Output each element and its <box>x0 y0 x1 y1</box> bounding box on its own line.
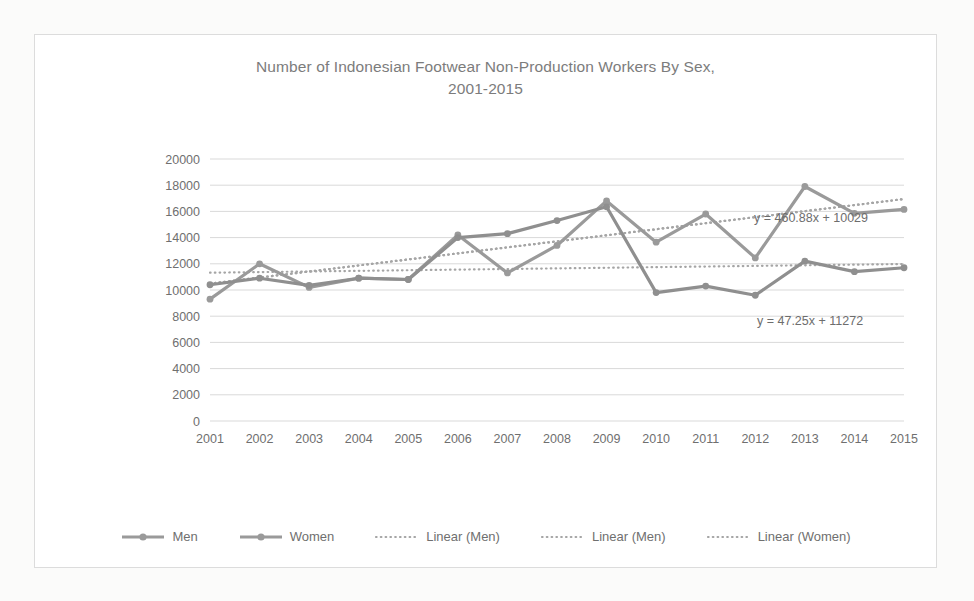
data-point-marker <box>801 258 808 265</box>
y-axis-tick-label: 20000 <box>165 153 200 167</box>
data-point-marker <box>901 264 908 271</box>
x-axis-tick-label: 2014 <box>841 432 869 446</box>
plot-svg: 0200040006000800010000120001400016000180… <box>35 35 938 569</box>
legend-dotted-line-icon <box>540 531 586 543</box>
data-point-marker <box>355 275 362 282</box>
data-point-marker <box>901 206 908 213</box>
data-point-marker <box>454 234 461 241</box>
data-point-marker <box>207 296 214 303</box>
data-point-marker <box>405 276 412 283</box>
data-point-marker <box>603 198 610 205</box>
data-point-marker <box>256 275 263 282</box>
legend-item-label: Women <box>290 529 335 544</box>
legend-item-label: Men <box>172 529 197 544</box>
legend-item-label: Linear (Women) <box>758 529 851 544</box>
y-axis-tick-label: 0 <box>193 415 200 429</box>
legend-item[interactable]: Linear (Men) <box>540 529 666 544</box>
data-point-marker <box>752 292 759 299</box>
legend-item-label: Linear (Men) <box>592 529 666 544</box>
data-point-marker <box>207 281 214 288</box>
x-axis-tick-label: 2003 <box>295 432 323 446</box>
x-axis-tick-label: 2012 <box>741 432 769 446</box>
legend-line-marker-icon <box>120 531 166 543</box>
data-point-marker <box>306 282 313 289</box>
y-axis-tick-label: 2000 <box>172 388 200 402</box>
data-point-marker <box>504 270 511 277</box>
x-axis-tick-label: 2013 <box>791 432 819 446</box>
data-point-marker <box>653 289 660 296</box>
x-axis-tick-label: 2006 <box>444 432 472 446</box>
trendline-equation-men: y = 460.88x + 10029 <box>754 211 868 225</box>
data-point-marker <box>504 230 511 237</box>
data-point-marker <box>801 183 808 190</box>
legend-item[interactable]: Linear (Women) <box>706 529 851 544</box>
data-point-marker <box>752 255 759 262</box>
x-axis-tick-label: 2007 <box>494 432 522 446</box>
trendline-equation-women: y = 47.25x + 11272 <box>757 314 863 328</box>
y-axis-tick-label: 14000 <box>165 231 200 245</box>
legend-dotted-line-icon <box>374 531 420 543</box>
x-axis-tick-label: 2002 <box>246 432 274 446</box>
y-axis-tick-label: 10000 <box>165 284 200 298</box>
legend-line-marker-icon <box>238 531 284 543</box>
data-point-marker <box>554 242 561 249</box>
data-point-marker <box>851 268 858 275</box>
chart-container: Number of Indonesian Footwear Non-Produc… <box>34 34 937 568</box>
y-axis-tick-label: 12000 <box>165 257 200 271</box>
data-point-marker <box>554 217 561 224</box>
y-axis-tick-label: 6000 <box>172 336 200 350</box>
legend-item-label: Linear (Men) <box>426 529 500 544</box>
data-point-marker <box>702 283 709 290</box>
x-axis-tick-label: 2005 <box>394 432 422 446</box>
x-axis-tick-label: 2008 <box>543 432 571 446</box>
x-axis-tick-label: 2004 <box>345 432 373 446</box>
y-axis-tick-label: 16000 <box>165 205 200 219</box>
chart-legend: MenWomenLinear (Men)Linear (Men)Linear (… <box>35 529 936 544</box>
x-axis-tick-label: 2009 <box>593 432 621 446</box>
data-point-marker <box>702 211 709 218</box>
y-axis-tick-label: 8000 <box>172 310 200 324</box>
data-point-marker <box>653 239 660 246</box>
y-axis-tick-label: 4000 <box>172 362 200 376</box>
x-axis-tick-label: 2010 <box>642 432 670 446</box>
legend-item[interactable]: Women <box>238 529 335 544</box>
data-point-marker <box>603 203 610 210</box>
x-axis-tick-label: 2001 <box>196 432 224 446</box>
x-axis-tick-label: 2015 <box>890 432 918 446</box>
legend-dotted-line-icon <box>706 531 752 543</box>
legend-item[interactable]: Linear (Men) <box>374 529 500 544</box>
plot-area: 0200040006000800010000120001400016000180… <box>35 35 938 569</box>
legend-item[interactable]: Men <box>120 529 197 544</box>
y-axis-tick-label: 18000 <box>165 179 200 193</box>
data-point-marker <box>256 260 263 267</box>
x-axis-tick-label: 2011 <box>692 432 719 446</box>
